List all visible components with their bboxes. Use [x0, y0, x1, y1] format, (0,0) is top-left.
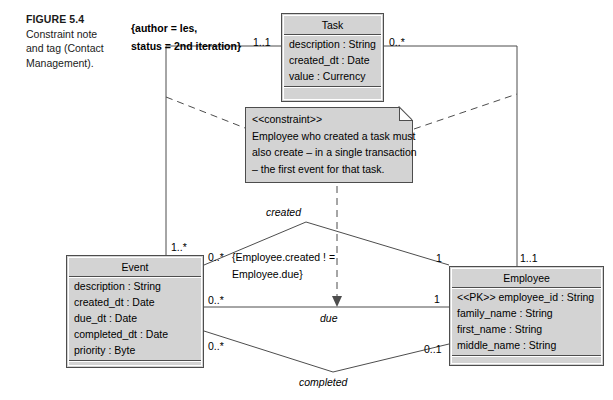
uml-class-event-inner: Event description : String created_dt : …: [68, 257, 202, 366]
association-label-due: due: [320, 312, 338, 325]
attribute-row: created_dt : Date: [289, 52, 381, 68]
attribute-row: description : String: [74, 278, 201, 294]
figure-caption-title: FIGURE 5.4: [26, 12, 130, 27]
attribute-row: middle_name : String: [457, 337, 601, 353]
multiplicity-event-created: 0..*: [208, 251, 224, 264]
attribute-row: completed_dt : Date: [74, 326, 201, 342]
multiplicity-event-completed: 0..*: [208, 340, 224, 353]
figure-caption-line-3: Management).: [26, 56, 130, 71]
uml-class-event-operations: [69, 361, 201, 372]
uml-class-event-name: Event: [69, 258, 201, 277]
uml-class-employee-inner: Employee <<PK>> employee_id : String fam…: [451, 268, 602, 364]
figure-caption-line-1: Constraint note: [26, 27, 130, 42]
constraint-note-line-3: – the first event for that task.: [252, 161, 406, 178]
figure-caption: FIGURE 5.4 Constraint note and tag (Cont…: [26, 12, 130, 70]
constraint-note[interactable]: <<constraint>> Employee who created a ta…: [245, 107, 413, 183]
attribute-row: description : String: [289, 36, 381, 52]
multiplicity-employee-top: 1..1: [520, 252, 538, 265]
tag-note-anchor-dashed: [166, 97, 245, 128]
constraint-note-line-2: also create – in a single transaction: [252, 144, 406, 161]
multiplicity-task-right: 0..*: [389, 36, 405, 49]
multiplicity-employee-created: 1: [436, 252, 442, 265]
tag-note-line-1: {author = les,: [131, 19, 241, 37]
uml-class-task-inner: Task description : String created_dt : D…: [283, 15, 382, 100]
attribute-row: family_name : String: [457, 305, 601, 321]
constraint-note-line-1: Employee who created a task must: [252, 128, 406, 145]
multiplicity-employee-completed: 0..1: [424, 343, 442, 356]
uml-class-employee-attributes: <<PK>> employee_id : String family_name …: [452, 288, 601, 356]
constraint-note-due-arrowhead: [332, 296, 342, 307]
figure-caption-line-2: and tag (Contact: [26, 41, 130, 56]
attribute-row: due_dt : Date: [74, 310, 201, 326]
attribute-row: <<PK>> employee_id : String: [457, 289, 601, 305]
attribute-row: value : Currency: [289, 68, 381, 84]
multiplicity-event-due: 0..*: [208, 294, 224, 307]
uml-class-task-name: Task: [284, 16, 381, 35]
inline-constraint-line-2: Employee.due}: [232, 268, 303, 281]
note-fold-corner-icon: [399, 107, 413, 121]
figure-canvas: FIGURE 5.4 Constraint note and tag (Cont…: [0, 0, 613, 400]
attribute-row: created_dt : Date: [74, 294, 201, 310]
uml-class-employee-name: Employee: [452, 269, 601, 288]
association-label-created: created: [266, 206, 301, 219]
uml-class-event[interactable]: Event description : String created_dt : …: [66, 255, 204, 368]
uml-class-employee-operations: [452, 356, 601, 367]
constraint-note-body: <<constraint>> Employee who created a ta…: [246, 108, 412, 182]
uml-class-task[interactable]: Task description : String created_dt : D…: [281, 13, 384, 102]
tag-note: {author = les, status = 2nd iteration}: [131, 19, 241, 55]
assoc-completed-line: [204, 331, 449, 372]
uml-class-task-operations: [284, 87, 381, 99]
uml-class-employee[interactable]: Employee <<PK>> employee_id : String fam…: [449, 266, 604, 366]
multiplicity-employee-due: 1: [434, 293, 440, 306]
constraint-note-anchor-dashed: [414, 94, 517, 129]
uml-class-task-attributes: description : String created_dt : Date v…: [284, 35, 381, 87]
uml-class-event-attributes: description : String created_dt : Date d…: [69, 277, 201, 361]
tag-note-line-2: status = 2nd iteration}: [131, 37, 241, 55]
multiplicity-event-top: 1..*: [171, 241, 187, 254]
inline-constraint-line-1: {Employee.created ! =: [232, 251, 335, 264]
multiplicity-task-left: 1..1: [253, 36, 271, 49]
association-label-completed: completed: [299, 376, 347, 389]
attribute-row: priority : Byte: [74, 342, 201, 358]
constraint-note-stereotype: <<constraint>>: [252, 111, 406, 128]
attribute-row: first_name : String: [457, 321, 601, 337]
